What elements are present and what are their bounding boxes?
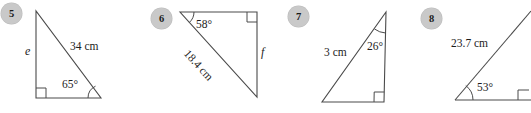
right-angle-mark-8 bbox=[518, 90, 529, 100]
problem-8: 8 23.7 cm 53° bbox=[0, 0, 531, 113]
hypotenuse-label-23-7cm: 23.7 cm bbox=[451, 38, 488, 50]
angle-arc-8 bbox=[466, 86, 473, 100]
angle-label-53deg: 53° bbox=[477, 82, 493, 94]
triangle-figure-8 bbox=[0, 0, 531, 113]
worksheet-canvas: 5 e 34 cm 65° 6 58° 18.4 cm f bbox=[0, 0, 531, 113]
